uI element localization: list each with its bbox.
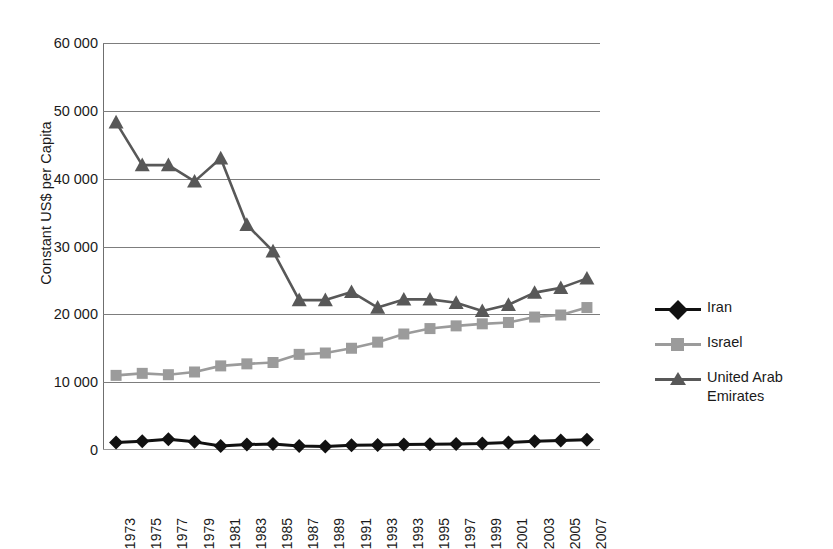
data-point-marker — [372, 337, 383, 348]
legend-item[interactable]: Israel — [655, 333, 833, 355]
data-point-marker — [398, 329, 409, 340]
x-axis-tick: 1997 — [462, 518, 478, 549]
series-iran — [109, 432, 594, 453]
x-axis-tick-labels: 1973197519771979198119831985198719891991… — [103, 452, 600, 524]
x-axis-tick: 1973 — [122, 518, 138, 549]
x-axis-tick: 1983 — [253, 518, 269, 549]
legend-label: United Arab Emirates — [701, 368, 831, 406]
legend-item[interactable]: United Arab Emirates — [655, 368, 833, 406]
series-plot — [103, 43, 600, 450]
data-point-marker — [137, 368, 148, 379]
data-point-marker — [579, 271, 594, 285]
plot-area — [103, 43, 600, 450]
x-axis-tick: 1993 — [384, 518, 400, 549]
data-point-marker — [423, 437, 437, 451]
data-point-marker — [501, 436, 515, 450]
y-axis-tick: 30 000 — [20, 239, 98, 255]
x-axis-tick: 2001 — [514, 518, 530, 549]
chart-legend: IranIsraelUnited Arab Emirates — [655, 298, 833, 419]
data-point-marker — [241, 358, 252, 369]
data-point-marker — [554, 434, 568, 448]
x-axis-tick: 1977 — [174, 518, 190, 549]
legend-marker-triangle-icon — [655, 369, 701, 389]
data-point-marker — [449, 437, 463, 451]
data-point-marker — [189, 366, 200, 377]
data-point-marker — [475, 437, 489, 451]
series-line — [116, 308, 587, 376]
y-axis-tick: 50 000 — [20, 103, 98, 119]
data-point-marker — [581, 302, 592, 313]
x-axis-tick: 1979 — [201, 518, 217, 549]
data-point-marker — [163, 369, 174, 380]
data-point-marker — [477, 318, 488, 329]
x-axis-tick: 1991 — [358, 518, 374, 549]
data-point-marker — [188, 435, 202, 449]
x-axis-tick: 1989 — [331, 518, 347, 549]
series-united-arab-emirates — [109, 115, 595, 317]
x-axis-tick: 1999 — [488, 518, 504, 549]
data-point-marker — [344, 284, 359, 298]
y-axis-tick: 0 — [20, 442, 98, 458]
data-point-marker — [580, 433, 594, 447]
legend-marker-square-icon — [655, 334, 701, 354]
data-point-marker — [424, 323, 435, 334]
data-point-marker — [320, 347, 331, 358]
data-point-marker — [268, 357, 279, 368]
data-point-marker — [346, 343, 357, 354]
y-axis-tick-labels: 010 00020 00030 00040 00050 00060 000 — [20, 0, 98, 524]
legend-item[interactable]: Iran — [655, 298, 833, 320]
data-point-marker — [135, 434, 149, 448]
data-point-marker — [213, 151, 228, 165]
data-point-marker — [555, 310, 566, 321]
legend-label: Iran — [701, 298, 732, 317]
data-point-marker — [501, 297, 516, 311]
data-point-marker — [397, 438, 411, 452]
data-point-marker — [239, 217, 254, 231]
series-line — [116, 122, 587, 311]
data-point-marker — [451, 320, 462, 331]
data-point-marker — [266, 437, 280, 451]
x-axis-tick: 1975 — [148, 518, 164, 549]
x-axis-tick: 1995 — [436, 518, 452, 549]
data-point-marker — [109, 115, 124, 129]
data-point-marker — [240, 438, 254, 452]
data-point-marker — [503, 317, 514, 328]
x-axis-tick: 2007 — [593, 518, 609, 549]
y-axis-tick: 40 000 — [20, 171, 98, 187]
data-point-marker — [161, 432, 175, 446]
data-point-marker — [215, 360, 226, 371]
x-axis-tick: 2005 — [567, 518, 583, 549]
legend-marker-diamond-icon — [655, 299, 701, 319]
x-axis-tick: 1993 — [410, 518, 426, 549]
data-point-marker — [528, 434, 542, 448]
series-israel — [111, 302, 593, 381]
x-axis-tick: 1981 — [227, 518, 243, 549]
data-point-marker — [345, 438, 359, 452]
data-point-marker — [371, 438, 385, 452]
data-point-marker — [529, 312, 540, 323]
y-axis-tick: 60 000 — [20, 35, 98, 51]
data-point-marker — [294, 349, 305, 360]
y-axis-tick: 20 000 — [20, 306, 98, 322]
x-axis-tick: 1987 — [305, 518, 321, 549]
data-point-marker — [292, 439, 306, 453]
y-axis-tick: 10 000 — [20, 374, 98, 390]
x-axis-tick: 2003 — [541, 518, 557, 549]
legend-label: Israel — [701, 333, 742, 352]
x-axis-tick: 1985 — [279, 518, 295, 549]
data-point-marker — [111, 370, 122, 381]
data-point-marker — [214, 439, 228, 453]
data-point-marker — [109, 436, 123, 450]
